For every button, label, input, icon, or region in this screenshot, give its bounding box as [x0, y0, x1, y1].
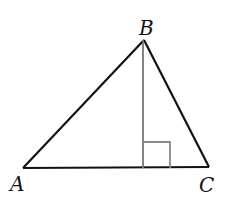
side-ac [23, 167, 209, 168]
side-bc [144, 40, 209, 167]
right-angle-marker [143, 142, 170, 168]
triangle-diagram: A B C [0, 0, 228, 199]
vertex-label-a: A [8, 172, 24, 196]
vertex-label-c: C [199, 173, 214, 197]
vertex-label-b: B [138, 16, 154, 40]
side-ab [23, 40, 144, 168]
